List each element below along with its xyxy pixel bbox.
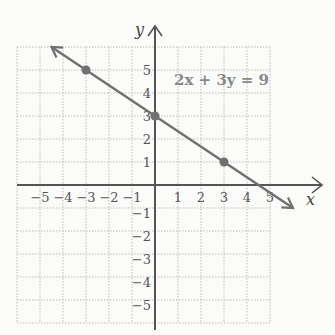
x-axis-label: x [306,190,315,209]
x-tick-label: −3 [76,190,95,205]
x-tick-label: −1 [122,190,141,205]
y-tick-label: 5 [143,63,151,78]
y-tick-label: −3 [132,252,151,267]
y-tick-label: −5 [132,298,151,313]
y-tick-label: −2 [132,229,151,244]
y-tick-label: 1 [143,155,151,170]
equation-label: 2x + 3y = 9 [174,71,269,89]
x-tick-label: 1 [174,190,182,205]
x-tick-label: −5 [30,190,49,205]
tick-labels: −5−4−3−2−11234554321−1−2−3−4−5 [30,63,274,313]
x-tick-label: −4 [53,190,72,205]
coordinate-plane: x y −5−4−3−2−11234554321−1−2−3−4−5 2x + … [0,0,335,335]
data-point [151,112,160,121]
data-point [220,158,229,167]
y-axis-label: y [134,20,145,39]
x-tick-label: 3 [220,190,228,205]
x-tick-label: −2 [99,190,118,205]
data-point [82,66,91,75]
x-tick-label: 2 [197,190,205,205]
y-tick-label: 2 [143,132,151,147]
y-tick-label: 4 [143,86,151,101]
y-tick-label: −1 [132,206,151,221]
y-tick-label: −4 [132,275,151,290]
x-tick-label: 4 [243,190,251,205]
